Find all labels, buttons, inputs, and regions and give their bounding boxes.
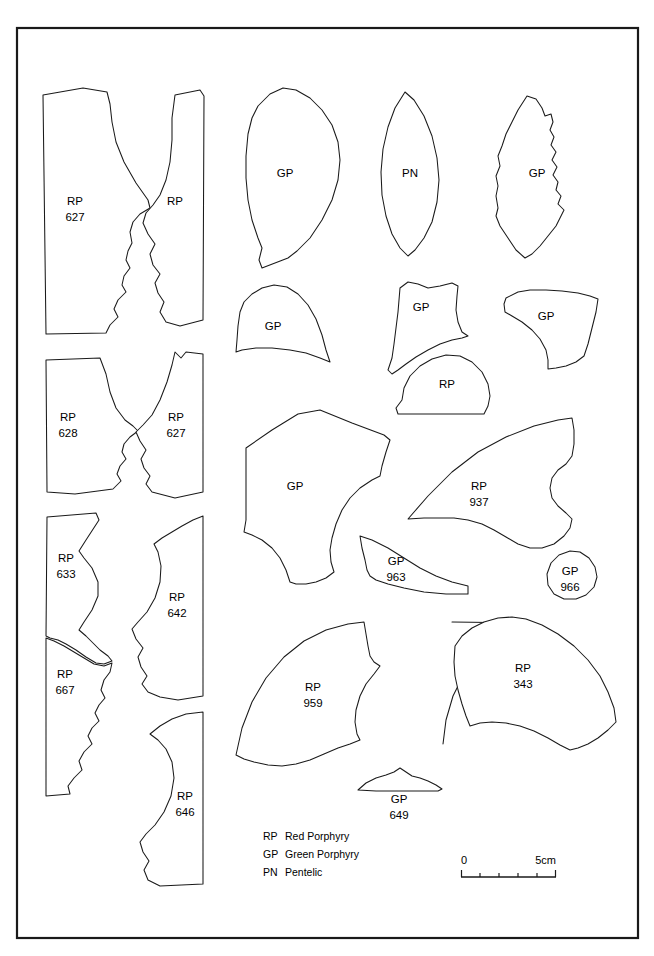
fragment-label-catalog: 628 [58, 427, 77, 439]
fragment-label-catalog: 627 [65, 211, 84, 223]
fragment-label-catalog: 642 [167, 607, 186, 619]
fragment-label-material: RP [67, 195, 83, 207]
fragment-label-material: RP [168, 411, 184, 423]
legend-code-gp: GP [263, 848, 278, 860]
fragment-label-catalog: 343 [513, 678, 532, 690]
fragment-label-catalog: 963 [386, 571, 405, 583]
fragment-label-material: GP [391, 793, 408, 805]
scale-bar-start-label: 0 [461, 854, 467, 866]
fragment-outline-gp-649 [358, 768, 442, 791]
fragment-label-catalog: 649 [389, 809, 408, 821]
fragment-outline-gp-963 [360, 536, 468, 594]
fragment-label-material: RP [58, 552, 74, 564]
fragment-outline-rp-343-body [454, 617, 616, 750]
legend-code-rp: RP [263, 830, 278, 842]
fragment-label-material: RP [60, 411, 76, 423]
fragment-label-material: PN [402, 167, 418, 179]
legend-name-gp: Green Porphyry [285, 848, 360, 860]
fragment-label-catalog: 959 [303, 697, 322, 709]
fragment-outline-gp-mid-1 [236, 285, 330, 362]
fragment-label-material: GP [277, 167, 294, 179]
fragment-outline-rp-628 [46, 358, 138, 494]
fragment-label-catalog: 937 [469, 496, 488, 508]
fragment-outline-rp-627c [136, 352, 203, 498]
fragment-outline-rp-646 [140, 712, 203, 886]
fragment-label-material: RP [169, 591, 185, 603]
fragment-label-catalog: 627 [166, 427, 185, 439]
fragment-label-material: GP [287, 480, 304, 492]
fragment-outline-rp-627-left [43, 88, 150, 334]
legend-name-pn: Pentelic [285, 866, 322, 878]
fragment-outline-rp-627b [143, 90, 204, 326]
fragment-label-material: RP [471, 480, 487, 492]
fragment-outline-rp-937 [408, 418, 574, 548]
fragment-label-material: RP [177, 790, 193, 802]
fragment-label-catalog: 667 [55, 684, 74, 696]
fragment-label-catalog: 646 [175, 806, 194, 818]
fragment-label-material: RP [167, 195, 183, 207]
fragment-label-material: GP [265, 320, 282, 332]
materials-key: RP Red Porphyry GP Green Porphyry PN Pen… [263, 830, 360, 878]
fragment-label-material: GP [388, 555, 405, 567]
fragment-outline-gp-mid-3 [504, 290, 598, 369]
legend-code-pn: PN [263, 866, 278, 878]
fragment-label-material: RP [439, 378, 455, 390]
fragment-plate: RP 627 RP GP PN GP RP 628 RP 627 GP GP G… [0, 0, 654, 956]
fragment-outline-rp-959 [236, 622, 380, 766]
fragment-label-material: RP [305, 681, 321, 693]
fragment-label-material: RP [515, 662, 531, 674]
fragment-label-material: GP [562, 565, 579, 577]
fragment-outline-rp-633 [46, 513, 112, 664]
fragment-label-material: GP [529, 167, 546, 179]
fragment-label-material: GP [538, 310, 555, 322]
scale-bar-end-label: 5cm [535, 854, 556, 866]
fragment-label-catalog: 966 [560, 581, 579, 593]
scale-bar: 0 5cm [461, 854, 556, 877]
legend-name-rp: Red Porphyry [285, 830, 350, 842]
fragment-label-catalog: 633 [56, 568, 75, 580]
fragment-label-material: RP [57, 668, 73, 680]
plate-drawing: RP 627 RP GP PN GP RP 628 RP 627 GP GP G… [0, 0, 654, 956]
fragment-label-material: GP [413, 301, 430, 313]
